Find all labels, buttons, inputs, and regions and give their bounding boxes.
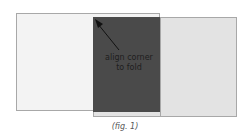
figure-caption: (fig. 1) bbox=[0, 122, 250, 131]
label-line-2: to fold bbox=[97, 63, 161, 73]
label-line-1: align corner bbox=[97, 53, 161, 63]
arrow-up-left-icon bbox=[93, 17, 133, 57]
instruction-label: align corner to fold bbox=[97, 53, 161, 73]
